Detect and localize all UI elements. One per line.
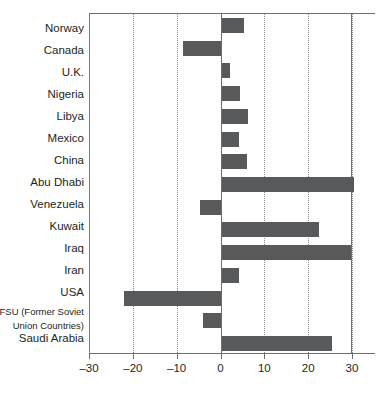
x-tick-label--30: –30 xyxy=(69,362,109,374)
x-tick--10 xyxy=(177,354,178,359)
gridline--30 xyxy=(89,14,91,353)
bar-venezuela xyxy=(200,200,221,215)
category-label-norway: Norway xyxy=(45,22,89,35)
bar-usa xyxy=(124,291,222,306)
x-tick-label-10: 10 xyxy=(244,362,284,374)
bar-mexico xyxy=(222,132,239,147)
x-tick-label--20: –20 xyxy=(113,362,153,374)
category-label-uk: U.K. xyxy=(62,66,89,79)
category-label-kuwait: Kuwait xyxy=(49,220,89,233)
category-label-fsu: FSU (Former Soviet Union Countries) xyxy=(0,305,89,332)
category-label-abu-dhabi: Abu Dhabi xyxy=(30,176,89,189)
x-tick-30 xyxy=(352,354,353,359)
bar-fsu-former-soviet-union-countries xyxy=(203,313,221,328)
bar-saudi-arabia xyxy=(222,336,332,351)
x-tick-10 xyxy=(264,354,265,359)
x-tick-0 xyxy=(221,354,222,359)
category-label-fsu-line2: Union Countries) xyxy=(13,320,84,331)
bar-norway xyxy=(222,18,244,33)
x-tick-label-0: 0 xyxy=(201,362,241,374)
x-tick--30 xyxy=(89,354,90,359)
category-label-canada: Canada xyxy=(44,44,89,57)
category-label-libya: Libya xyxy=(57,110,90,123)
category-label-venezuela: Venezuela xyxy=(30,198,89,211)
category-label-mexico: Mexico xyxy=(48,132,89,145)
bar-u-k xyxy=(222,63,231,78)
category-label-china: China xyxy=(54,154,89,167)
category-label-usa: USA xyxy=(60,286,89,299)
x-tick-20 xyxy=(308,354,309,359)
horizontal-bar-chart: Norway Canada U.K. Nigeria Libya Mexico … xyxy=(0,0,386,396)
bar-iraq xyxy=(222,245,352,260)
bar-kuwait xyxy=(222,222,319,237)
bar-abu-dhabi xyxy=(222,177,355,192)
bar-nigeria xyxy=(222,86,241,101)
category-label-iraq: Iraq xyxy=(64,242,89,255)
x-tick-label--10: –10 xyxy=(157,362,197,374)
category-label-iran: Iran xyxy=(64,264,89,277)
x-tick-label-20: 20 xyxy=(288,362,328,374)
plot-area xyxy=(89,13,352,354)
bar-canada xyxy=(183,41,222,56)
bar-china xyxy=(222,154,248,169)
x-tick-label-30: 30 xyxy=(332,362,372,374)
category-label-nigeria: Nigeria xyxy=(48,88,89,101)
bar-iran xyxy=(222,268,239,283)
category-label-saudi-arabia: Saudi Arabia xyxy=(19,332,89,345)
x-tick--20 xyxy=(133,354,134,359)
category-label-fsu-line1: FSU (Former Soviet xyxy=(0,306,84,317)
bar-libya xyxy=(222,109,248,124)
